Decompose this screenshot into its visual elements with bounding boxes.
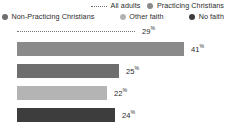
bar-track-practicing-christians [17, 42, 184, 56]
plot-area: 29% 41% 25% 22% 24% [0, 24, 227, 130]
bar-value-suffix-practicing-christians: % [199, 43, 204, 49]
bar-other-faith[interactable] [17, 86, 107, 100]
bar-row: 24% [0, 108, 227, 122]
bar-track-all-adults [17, 27, 135, 35]
bar-row: 25% [0, 64, 227, 78]
bar-value-suffix-all-adults: % [150, 25, 155, 31]
bar-practicing-christians[interactable] [17, 42, 184, 56]
legend-label-no-faith: No faith [199, 13, 224, 21]
bar-value-suffix-non-practicing-christians: % [134, 65, 139, 71]
bar-value-all-adults: 29% [142, 26, 155, 36]
bar-value-suffix-no-faith: % [130, 109, 135, 115]
legend-label-other-faith: Other faith [129, 13, 163, 21]
circle-swatch-icon [189, 14, 195, 20]
legend-label-non-practicing-christians: Non-Practicing Christians [12, 13, 95, 21]
bar-all-adults[interactable] [17, 31, 135, 32]
legend-item-other-faith[interactable]: Other faith [120, 13, 164, 21]
circle-swatch-icon [147, 3, 153, 9]
legend-label-all-adults: All adults [111, 2, 141, 10]
bar-row: 22% [0, 86, 227, 100]
legend-item-all-adults[interactable]: All adults [91, 2, 140, 10]
bar-track-other-faith [17, 86, 107, 100]
bar-value-practicing-christians: 41% [191, 44, 204, 54]
bar-track-no-faith [17, 108, 115, 122]
legend-item-no-faith[interactable]: No faith [189, 13, 224, 21]
circle-swatch-icon [2, 14, 8, 20]
bar-value-other-faith: 22% [114, 88, 127, 98]
bar-no-faith[interactable] [17, 108, 115, 122]
chart-legend: All adults Practicing Christians Non-Pra… [0, 0, 227, 22]
bar-non-practicing-christians[interactable] [17, 64, 119, 78]
bar-row: 41% [0, 42, 227, 56]
legend-item-practicing-christians[interactable]: Practicing Christians [147, 2, 224, 10]
dotted-line-swatch-icon [91, 3, 107, 9]
bar-track-non-practicing-christians [17, 64, 119, 78]
legend-row-2: Non-Practicing Christians Other faith No… [0, 11, 227, 22]
bar-value-suffix-other-faith: % [122, 87, 127, 93]
bar-value-no-faith: 24% [122, 110, 135, 120]
legend-item-non-practicing-christians[interactable]: Non-Practicing Christians [2, 13, 94, 21]
bar-chart: All adults Practicing Christians Non-Pra… [0, 0, 227, 130]
bar-row: 29% [0, 27, 227, 35]
bar-value-non-practicing-christians: 25% [126, 66, 139, 76]
legend-row-1: All adults Practicing Christians [0, 0, 227, 11]
legend-label-practicing-christians: Practicing Christians [157, 2, 224, 10]
circle-swatch-icon [120, 14, 126, 20]
